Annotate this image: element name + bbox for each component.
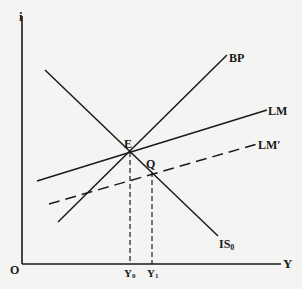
y-axis-label: i (19, 9, 23, 24)
x-axis-label: Y (283, 256, 293, 271)
x-tick-labels: Y0 Y1 (124, 267, 159, 280)
is-line (45, 70, 218, 236)
lm-prime-line (49, 144, 257, 204)
is-label-subscript: 0 (230, 243, 234, 252)
bp-line (58, 55, 227, 222)
lm-curve-label: LM (268, 104, 287, 118)
lm-prime-curve-label: LM′ (258, 138, 281, 152)
tick-y1-label: Y1 (147, 267, 159, 280)
tick-y0-subscript: 0 (132, 272, 136, 280)
bp-curve-label: BP (229, 51, 244, 65)
is-label-main: IS (219, 237, 231, 251)
is-curve: IS0 (45, 70, 234, 252)
lm-prime-curve: LM′ (49, 138, 281, 204)
tick-y1-main: Y (147, 267, 155, 279)
bp-curve: BP (58, 51, 244, 222)
tick-y0-label: Y0 (124, 267, 136, 280)
tick-y0-main: Y (124, 267, 132, 279)
origin-label: O (10, 263, 19, 277)
is-curve-label: IS0 (219, 237, 234, 252)
point-q-label: Q (146, 157, 155, 171)
point-e-label: E (124, 137, 132, 151)
is-lm-bp-diagram: i Y O IS0 BP LM LM′ E Q Y0 Y1 (0, 0, 302, 289)
lm-curve: LM (37, 104, 287, 181)
tick-y1-subscript: 1 (155, 272, 159, 280)
